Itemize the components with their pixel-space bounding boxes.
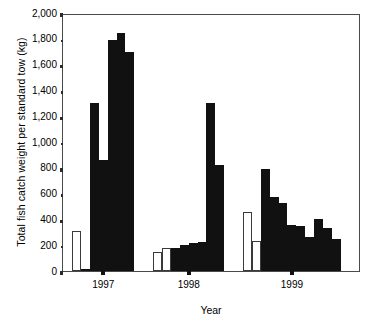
bar-1997-1	[72, 231, 81, 271]
y-tick-mark	[60, 271, 63, 274]
x-tick-label: 1998	[159, 279, 219, 290]
bar-1999-10	[323, 228, 332, 271]
y-tick-label: 1,000	[32, 137, 57, 148]
y-tick-label: 1,200	[32, 111, 57, 122]
bar-1998-6	[198, 242, 207, 271]
y-tick-mark	[60, 65, 63, 68]
bar-1998-4	[180, 245, 189, 271]
bar-1998-2	[162, 248, 171, 271]
bar-1999-5	[279, 203, 288, 271]
y-tick-label: 600	[40, 188, 57, 199]
bar-1997-7	[125, 52, 134, 271]
bar-1999-2	[252, 241, 261, 271]
y-tick-mark	[61, 91, 63, 93]
bar-chart: Total fish catch weight per standard tow…	[0, 0, 376, 324]
x-tick-mark	[101, 271, 105, 275]
bar-1998-1	[153, 252, 162, 271]
plot-inner: 02004006008001,0001,2001,4001,6001,8002,…	[63, 15, 359, 271]
y-tick-label: 200	[40, 240, 57, 251]
y-tick-mark	[60, 220, 63, 223]
y-tick-label: 1,400	[32, 85, 57, 96]
x-tick-label: 1999	[262, 279, 322, 290]
bar-1999-9	[314, 219, 323, 271]
bar-1999-7	[296, 226, 305, 271]
y-tick-label: 0	[51, 266, 57, 277]
y-tick-mark	[60, 168, 63, 171]
plot-area: 02004006008001,0001,2001,4001,6001,8002,…	[62, 14, 360, 272]
bar-1997-3	[90, 103, 99, 271]
bar-1999-8	[305, 237, 314, 271]
bar-1998-8	[215, 165, 224, 271]
bar-1999-6	[287, 225, 296, 271]
y-tick-label: 1,600	[32, 59, 57, 70]
y-tick-label: 2,000	[32, 8, 57, 19]
y-tick-mark	[61, 194, 63, 196]
y-tick-label: 400	[40, 214, 57, 225]
y-tick-label: 1,800	[32, 33, 57, 44]
y-axis-title: Total fish catch weight per standard tow…	[15, 7, 27, 277]
bar-1997-4	[99, 160, 108, 271]
bar-1999-4	[270, 197, 279, 271]
bar-1998-5	[189, 243, 198, 271]
bar-1998-7	[206, 103, 215, 271]
bar-1999-3	[261, 169, 270, 271]
y-tick-mark	[61, 143, 63, 145]
x-tick-label: 1997	[73, 279, 133, 290]
bar-1997-5	[108, 40, 117, 271]
bar-1999-11	[332, 239, 341, 271]
y-tick-mark	[60, 13, 63, 16]
bar-1997-6	[117, 33, 126, 271]
x-axis-title: Year	[62, 304, 360, 316]
x-tick-mark	[187, 271, 191, 275]
y-tick-label: 800	[40, 162, 57, 173]
y-tick-mark	[61, 40, 63, 42]
bar-1998-3	[171, 248, 180, 271]
bar-1997-2	[81, 269, 90, 271]
bar-1999-1	[243, 212, 252, 271]
y-tick-mark	[60, 117, 63, 120]
y-tick-mark	[61, 246, 63, 248]
x-tick-mark	[290, 271, 294, 275]
